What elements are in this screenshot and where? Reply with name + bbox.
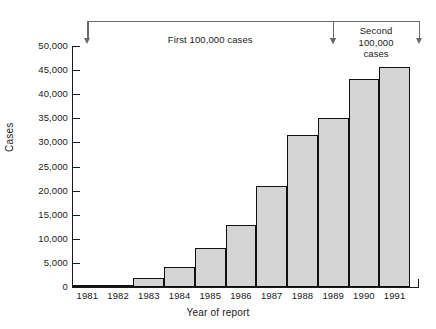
x-axis-line: [72, 287, 419, 288]
x-tick-label-1982: 1982: [103, 291, 134, 301]
y-tick-label: 30,000: [38, 137, 68, 147]
x-tick-label-1987: 1987: [256, 291, 287, 301]
bar-1990: [349, 79, 380, 287]
y-tick: [73, 287, 80, 288]
bracket-line: [87, 21, 333, 22]
y-tick-label: 0: [63, 282, 68, 292]
bar-chart: Cases 05,00010,00015,00020,00025,00030,0…: [0, 0, 436, 329]
y-tick-label: 25,000: [38, 162, 68, 172]
y-tick-label: 15,000: [38, 210, 68, 220]
bar-1985: [195, 248, 226, 287]
x-tick-label-1983: 1983: [133, 291, 164, 301]
bar-1981: [72, 285, 103, 287]
bracket-arm: [419, 21, 420, 38]
x-tick-label-1988: 1988: [287, 291, 318, 301]
bracket-line: [333, 21, 419, 22]
x-tick-label-1989: 1989: [318, 291, 349, 301]
y-axis-title: Cases: [4, 123, 15, 152]
y-tick-label: 35,000: [38, 113, 68, 123]
y-tick-label: 10,000: [38, 234, 68, 244]
bar-1987: [256, 186, 287, 287]
x-tick-label-1986: 1986: [226, 291, 257, 301]
x-tick-label-1985: 1985: [195, 291, 226, 301]
annotation-label: First 100,000 cases: [87, 34, 333, 46]
annotation-label: Second100,000cases: [333, 25, 419, 60]
y-tick-label: 5,000: [44, 258, 68, 268]
x-tick-label-1991: 1991: [379, 291, 410, 301]
x-axis-end-cap: [418, 279, 419, 288]
y-tick-label: 20,000: [38, 186, 68, 196]
x-axis-title: Year of report: [0, 307, 436, 318]
bar-1982: [103, 285, 134, 287]
y-tick-label: 40,000: [38, 89, 68, 99]
bar-1986: [226, 225, 257, 287]
x-tick-label-1984: 1984: [164, 291, 195, 301]
y-tick-label: 50,000: [38, 41, 68, 51]
x-tick-label-1981: 1981: [72, 291, 103, 301]
y-tick-label: 45,000: [38, 65, 68, 75]
bar-1989: [318, 118, 349, 287]
bar-1988: [287, 135, 318, 287]
plot-area: [72, 46, 410, 287]
bar-1991: [379, 67, 410, 287]
bar-1983: [133, 278, 164, 287]
x-tick-label-1990: 1990: [349, 291, 380, 301]
bar-1984: [164, 267, 195, 287]
